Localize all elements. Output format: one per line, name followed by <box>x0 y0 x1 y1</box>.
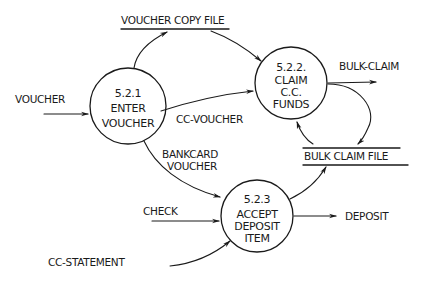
flow-label: CHECK <box>143 205 179 217</box>
process-name-line-3: ITEM <box>244 232 269 245</box>
flow-bulk-claim-file-to-5-2-2 <box>297 122 313 144</box>
flow-arrow <box>134 32 167 68</box>
flow-arrow <box>170 241 230 266</box>
flow-5-2-1-to-voucher-copy-file <box>134 32 167 68</box>
flow-arrow <box>161 91 253 111</box>
flow-label: CC-VOUCHER <box>176 113 243 125</box>
flow-check: CHECK <box>143 205 219 221</box>
process-5-2-2: 5.2.2. CLAIM C.C. FUNDS <box>255 47 327 119</box>
process-name-line-2: VOUCHER <box>102 117 155 130</box>
data-store-label: BULK CLAIM FILE <box>304 150 388 162</box>
flow-arrow <box>328 84 371 144</box>
data-store-voucher-copy-file: VOUCHER COPY FILE <box>121 14 229 29</box>
flow-voucher: VOUCHER <box>15 93 88 114</box>
flow-cc-voucher: CC-VOUCHER <box>161 91 253 125</box>
process-5-2-1: 5.2.1 ENTER VOUCHER <box>90 68 166 144</box>
flow-label-line-2: VOUCHER <box>167 160 217 172</box>
process-number: 5.2.1 <box>115 87 142 100</box>
process-number: 5.2.2. <box>276 61 306 74</box>
data-flow-diagram: VOUCHER COPY FILE BULK CLAIM FILE 5.2.1 … <box>0 0 440 285</box>
flow-arrow <box>328 82 376 83</box>
flow-label: VOUCHER <box>15 93 65 105</box>
process-number: 5.2.3 <box>244 193 271 206</box>
process-name-line-1: ENTER <box>111 102 147 115</box>
data-store-label: VOUCHER COPY FILE <box>121 14 224 26</box>
flow-5-2-2-to-bulk-claim-file <box>328 84 371 144</box>
flow-arrow <box>297 122 313 144</box>
flow-label-line-1: BANKCARD <box>162 148 218 160</box>
process-5-2-3: 5.2.3 ACCEPT DEPOSIT ITEM <box>221 180 293 252</box>
data-store-bulk-claim-file: BULK CLAIM FILE <box>303 148 408 165</box>
flow-bulk-claim: BULK-CLAIM <box>328 60 399 83</box>
flow-arrow <box>290 167 326 199</box>
flow-label: CC-STATEMENT <box>48 256 125 268</box>
flow-cc-statement: CC-STATEMENT <box>48 241 230 268</box>
flow-label: DEPOSIT <box>345 210 389 222</box>
flow-deposit: DEPOSIT <box>294 210 389 222</box>
process-name-line-3: FUNDS <box>273 98 310 111</box>
flow-5-2-3-to-bulk-claim-file <box>290 167 326 199</box>
flow-arrow <box>211 31 261 61</box>
flow-bankcard-voucher: BANKCARD VOUCHER <box>144 141 220 197</box>
flow-voucher-copy-file-to-5-2-2 <box>211 31 261 61</box>
flow-label: BULK-CLAIM <box>339 60 399 72</box>
